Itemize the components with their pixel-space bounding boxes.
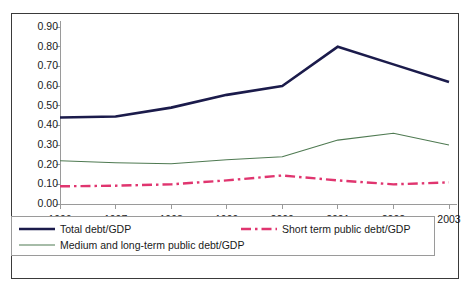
plot-area: 0.000.100.200.300.400.500.600.700.800.90… [12, 14, 460, 219]
legend-line-swatch [18, 223, 56, 235]
x-axis-tick-labels: 19961997199819992000200120022003 [12, 14, 460, 219]
legend-label: Total debt/GDP [60, 223, 131, 235]
chart-legend: Total debt/GDPMedium and long-term publi… [11, 216, 435, 256]
legend-entry[interactable]: Total debt/GDP [18, 222, 131, 236]
legend-entry[interactable]: Short term public debt/GDP [240, 222, 410, 236]
legend-label: Medium and long-term public debt/GDP [60, 239, 244, 251]
legend-label: Short term public debt/GDP [282, 223, 410, 235]
legend-entry[interactable]: Medium and long-term public debt/GDP [18, 238, 244, 252]
legend-line-swatch [18, 239, 56, 251]
chart-root: 0.000.100.200.300.400.500.600.700.800.90… [0, 0, 470, 286]
legend-line-swatch [240, 223, 278, 235]
